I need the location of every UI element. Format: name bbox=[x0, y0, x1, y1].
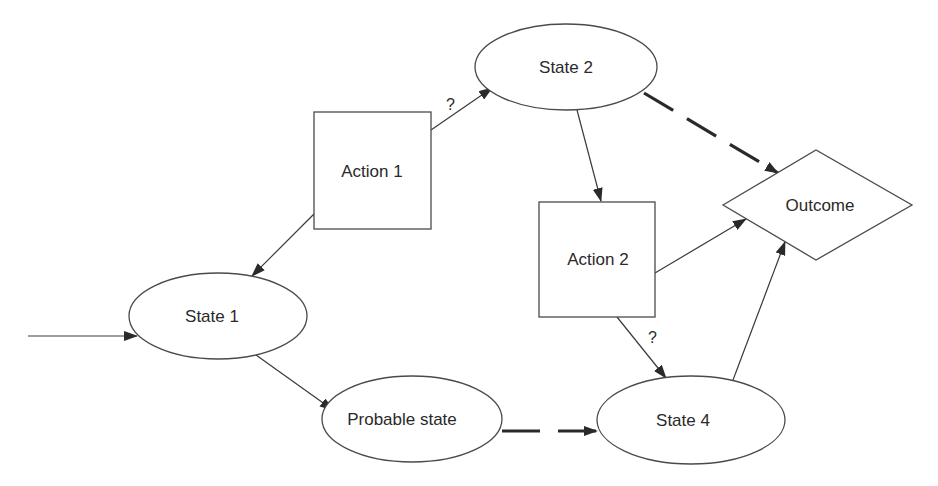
edge-state2-to-action2 bbox=[577, 110, 601, 201]
edge-state4-to-outcome bbox=[733, 242, 785, 380]
node-label: Probable state bbox=[347, 410, 457, 429]
node-action2: Action 2 bbox=[539, 202, 655, 317]
edge-action1-to-state2 bbox=[431, 88, 492, 130]
node-probable-state: Probable state bbox=[322, 376, 502, 462]
edge-state2-to-outcome bbox=[644, 93, 778, 173]
edge-action1-to-state1 bbox=[252, 214, 314, 276]
edge-action2-to-outcome bbox=[655, 219, 746, 273]
decision-diagram: ? ? State 2 Action 1 State 1 Action 2 Ou… bbox=[0, 0, 938, 486]
node-label: State 1 bbox=[185, 307, 239, 326]
edge-label-action1-state2: ? bbox=[446, 96, 455, 113]
edge-action2-to-state4 bbox=[617, 317, 666, 378]
edge-state1-to-probable bbox=[256, 355, 333, 410]
node-outcome: Outcome bbox=[723, 150, 912, 260]
node-label: Outcome bbox=[786, 196, 855, 215]
node-state2: State 2 bbox=[475, 24, 657, 110]
node-action1: Action 1 bbox=[314, 112, 431, 229]
node-state1: State 1 bbox=[129, 273, 307, 359]
node-label: State 2 bbox=[539, 58, 593, 77]
edge-label-action2-state4: ? bbox=[648, 329, 657, 346]
node-state4: State 4 bbox=[597, 376, 785, 464]
node-label: State 4 bbox=[656, 411, 710, 430]
node-label: Action 1 bbox=[341, 162, 402, 181]
node-label: Action 2 bbox=[567, 250, 628, 269]
